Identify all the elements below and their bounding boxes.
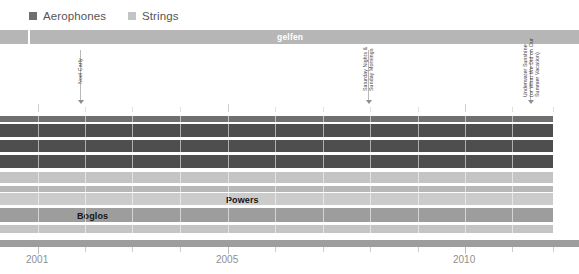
upper-tick-minor (553, 107, 554, 112)
chart-gridline (180, 114, 181, 238)
chart-gridline (228, 114, 229, 238)
upper-tick-minor (370, 107, 371, 112)
chart-gridline (323, 114, 324, 238)
chart-band[interactable] (0, 225, 553, 233)
axis-tick-minor (180, 247, 181, 252)
upper-tick-major (228, 104, 229, 112)
axis-tick-minor (132, 247, 133, 252)
axis-tick-minor (370, 247, 371, 252)
chart-band[interactable] (0, 155, 553, 168)
top-bar-label: gelfen (277, 30, 303, 44)
chart-gridline (132, 114, 133, 238)
upper-tick-minor (418, 107, 419, 112)
legend-label: Strings (142, 10, 179, 22)
upper-tick-minor (275, 107, 276, 112)
axis-baseline (0, 240, 579, 247)
legend-item-aerophones[interactable]: Aerophones (29, 10, 106, 22)
top-bar-segment[interactable] (0, 30, 28, 44)
chart-band[interactable] (0, 116, 553, 122)
axis-label: 2010 (453, 254, 475, 265)
axis-label: 2005 (216, 254, 238, 265)
axis-tick-minor (553, 247, 554, 252)
axis-tick-major (465, 247, 466, 254)
legend-label: Aerophones (43, 10, 106, 22)
annotation-text-line: Sunday Mornings (368, 47, 374, 91)
upper-tick-minor (85, 107, 86, 112)
axis-tick-minor (418, 247, 419, 252)
upper-tick-minor (180, 107, 181, 112)
chart-gridline (85, 114, 86, 238)
chart-band[interactable] (0, 193, 553, 205)
chart-root: AerophonesStrings gelfen Noel CarlySatur… (0, 0, 579, 274)
chart-gridline (418, 114, 419, 238)
annotation-noel-carly-label: Noel Carly (77, 58, 83, 84)
chart-gridline (465, 114, 466, 238)
chart-gridline (275, 114, 276, 238)
axis-tick-minor (85, 247, 86, 252)
chart-band[interactable] (0, 186, 553, 192)
chart-band[interactable] (0, 124, 553, 137)
chart-band[interactable] (0, 140, 553, 152)
annotation-text-line: Noel Carly (77, 58, 83, 84)
upper-tick-minor (512, 107, 513, 112)
axis-tick-minor (323, 247, 324, 252)
axis-label: 2001 (26, 254, 48, 265)
upper-tick-major (465, 104, 466, 112)
chart-band[interactable] (0, 172, 553, 183)
axis-tick-major (228, 247, 229, 254)
axis-tick-major (38, 247, 39, 254)
upper-tick-row (0, 104, 579, 112)
annotation-text-line: Summer Vacation) (534, 38, 540, 97)
chart-gridline (553, 114, 554, 238)
legend-swatch-strings (128, 12, 136, 20)
chart-gridline (38, 114, 39, 238)
chart-gridline (370, 114, 371, 238)
annotation-underwater-sunshine-label: Underwater Sunshine(or What We Did on Ou… (522, 38, 541, 97)
chart-gridline (512, 114, 513, 238)
upper-tick-major (38, 104, 39, 112)
chart-band-label: Boglos (77, 211, 108, 221)
upper-tick-minor (132, 107, 133, 112)
chart-bands: PowersBoglos (0, 114, 579, 238)
chart-legend: AerophonesStrings (29, 7, 179, 25)
top-bar-segment[interactable] (30, 30, 579, 44)
axis-tick-minor (275, 247, 276, 252)
legend-item-strings[interactable]: Strings (128, 10, 179, 22)
top-summary-bar: gelfen (0, 30, 579, 44)
legend-swatch-aerophones (29, 12, 37, 20)
annotation-sunday-nights-label: Saturday Nights &Sunday Mornings (362, 47, 374, 91)
upper-tick-minor (323, 107, 324, 112)
chart-band-label: Powers (226, 195, 259, 205)
axis-tick-minor (512, 247, 513, 252)
